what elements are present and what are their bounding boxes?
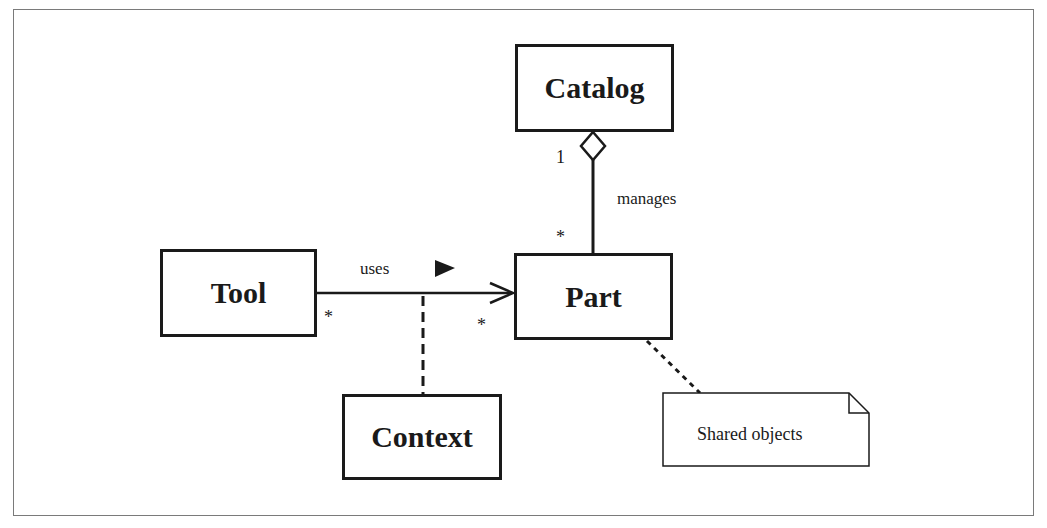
tool-multiplicity: *	[324, 308, 333, 326]
part-manages-multiplicity: *	[556, 228, 565, 246]
part-uses-multiplicity: *	[477, 316, 486, 334]
catalog-multiplicity: 1	[556, 148, 565, 166]
class-tool[interactable]: Tool	[160, 249, 317, 337]
direction-triangle-icon	[435, 260, 455, 277]
class-catalog[interactable]: Catalog	[515, 44, 674, 132]
manages-label: manages	[617, 190, 676, 207]
class-part-name: Part	[565, 280, 622, 314]
class-context-name: Context	[371, 420, 473, 454]
note-dotted-connector	[647, 341, 700, 393]
class-part[interactable]: Part	[514, 253, 673, 340]
note-text: Shared objects	[697, 425, 802, 443]
class-catalog-name: Catalog	[545, 71, 645, 105]
uses-label: uses	[360, 260, 389, 277]
class-context[interactable]: Context	[342, 394, 502, 480]
class-tool-name: Tool	[211, 276, 267, 310]
aggregation-diamond-icon	[581, 132, 605, 160]
